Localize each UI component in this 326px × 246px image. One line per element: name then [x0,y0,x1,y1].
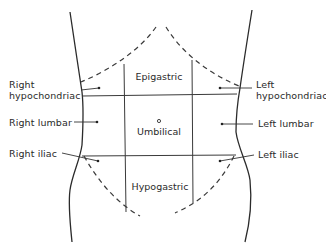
subcostal-plane [82,94,237,96]
left-hypochondriac-dot [219,87,222,90]
left-midclavicular-line [192,60,193,203]
left-lumbar-dot [221,123,224,126]
left-iliac-dot [219,160,222,163]
left-hypochondriac-label-line2: hypochondriac [256,90,326,101]
right-body-outline [236,10,252,242]
left-hypochondriac-label-line1: Left [256,79,274,90]
right-iliac-dot [97,160,100,163]
umbilical-label: Umbilical [137,126,181,137]
right-hypochondriac-label-line1: Right [9,79,35,90]
right-midclavicular-line [124,64,126,212]
right-hypochondriac-label-line2: hypochondriac [9,90,80,101]
umbilicus-icon [157,119,160,122]
right-lumbar-dot [96,121,99,124]
hypogastric-label: Hypogastric [132,181,189,192]
right-hypochondriac-dot [98,87,101,90]
epigastric-label: Epigastric [136,71,183,82]
transtubercular-plane [82,155,236,156]
right-lumbar-label: Right lumbar [9,117,72,128]
left-lumbar-label: Left lumbar [258,118,314,129]
abdominal-regions-diagram: Epigastric Umbilical Hypogastric Right h… [0,0,326,246]
right-iliac-label: Right iliac [9,148,57,159]
left-iliac-leader [220,155,254,161]
left-iliac-label: Left iliac [258,149,299,160]
right-hypochondriac-leader [81,88,99,90]
